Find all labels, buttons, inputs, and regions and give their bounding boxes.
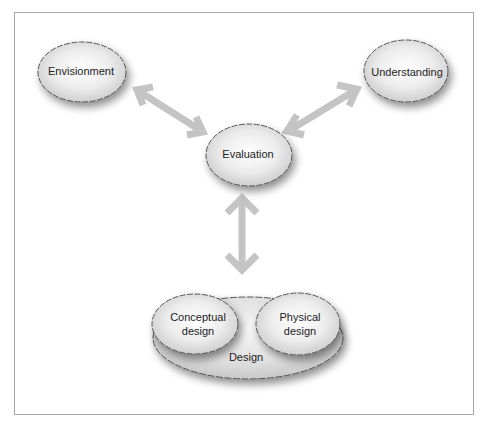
evaluation-label: Evaluation xyxy=(222,148,273,161)
arrow-evaluation-design xyxy=(227,197,257,270)
physical-design-label-line1: Physical xyxy=(280,311,321,324)
design-label: Design xyxy=(229,351,263,364)
conceptual-design-label-line1: Conceptual xyxy=(170,311,226,324)
physical-design-label-line2: design xyxy=(284,325,316,338)
arrow-understanding-evaluation xyxy=(287,85,357,135)
conceptual-design-label-line2: design xyxy=(182,325,214,338)
understanding-label: Understanding xyxy=(371,66,443,79)
envisionment-label: Envisionment xyxy=(48,65,114,78)
arrow-envisionment-evaluation xyxy=(137,87,203,135)
